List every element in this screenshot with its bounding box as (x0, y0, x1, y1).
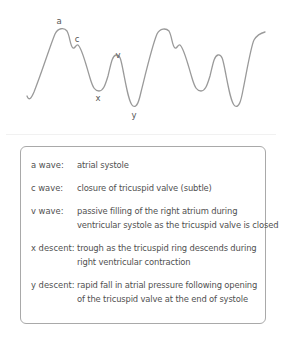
legend-item-c-wave: c wave: closure of tricuspid valve (subt… (31, 181, 261, 195)
legend-term: x descent: (31, 241, 77, 269)
legend-description: passive filling of the right atrium duri… (77, 204, 278, 232)
legend-description-line: rapid fall in atrial pressure following … (77, 278, 261, 292)
v-wave-label: v (115, 51, 120, 60)
legend-term: v wave: (31, 204, 77, 232)
legend-item-x-descent: x descent: trough as the tricuspid ring … (31, 241, 261, 269)
legend-item-y-descent: y descent: rapid fall in atrial pressure… (31, 278, 261, 306)
legend-description-line: ventricular systole as the tricuspid val… (77, 218, 278, 232)
section-divider (6, 134, 276, 135)
legend-description-line: atrial systole (77, 158, 261, 172)
legend-description: rapid fall in atrial pressure following … (77, 278, 261, 306)
waveform-trace (0, 0, 282, 135)
legend-description: closure of tricuspid valve (subtle) (77, 181, 261, 195)
legend-description-line: right ventricular contraction (77, 255, 261, 269)
legend-box: a wave: atrial systole c wave: closure o… (20, 146, 266, 324)
legend-item-a-wave: a wave: atrial systole (31, 158, 261, 172)
c-wave-label: c (75, 35, 80, 44)
legend-description: atrial systole (77, 158, 261, 172)
legend-term: c wave: (31, 181, 77, 195)
legend-item-v-wave: v wave: passive filling of the right atr… (31, 204, 261, 232)
legend-description-line: passive filling of the right atrium duri… (77, 204, 278, 218)
legend-term: y descent: (31, 278, 77, 306)
x-descent-label: x (95, 94, 100, 103)
legend-description-line: closure of tricuspid valve (subtle) (77, 181, 261, 195)
y-descent-label: y (131, 111, 136, 120)
legend-description-line: of the tricuspid valve at the end of sys… (77, 292, 261, 306)
legend-term: a wave: (31, 158, 77, 172)
legend-description-line: trough as the tricuspid ring descends du… (77, 241, 261, 255)
a-wave-label: a (56, 17, 61, 26)
legend-description: trough as the tricuspid ring descends du… (77, 241, 261, 269)
jvp-waveform: a c v x y (0, 0, 282, 135)
